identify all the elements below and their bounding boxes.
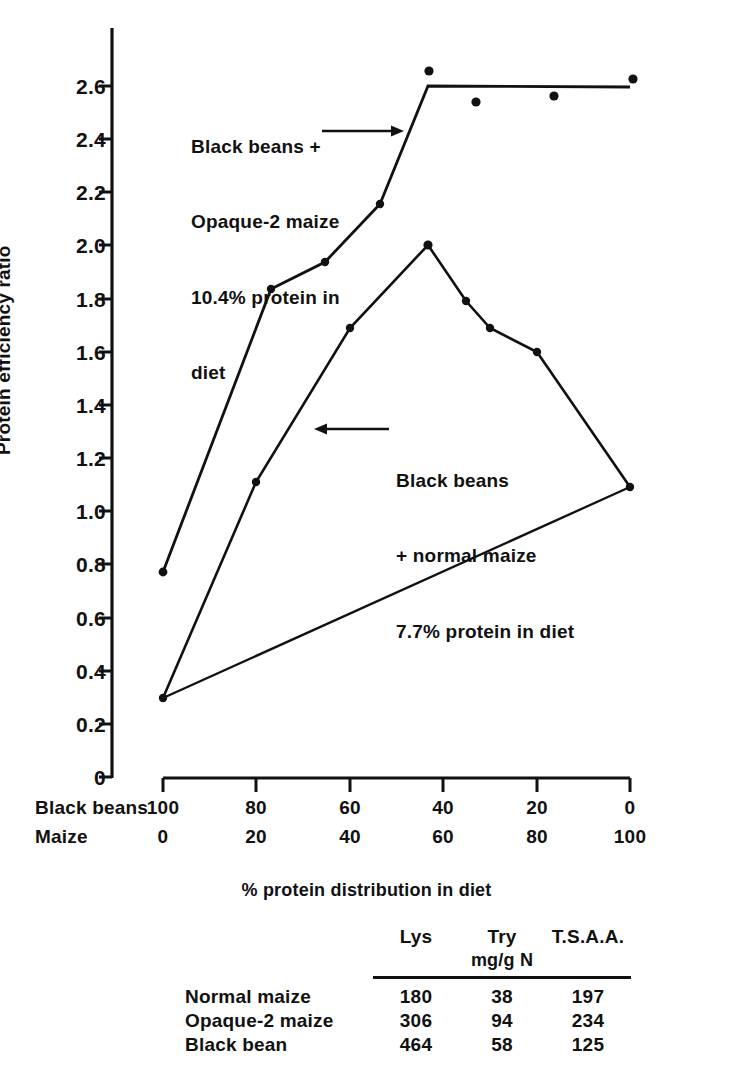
x-tick-label-black-beans: 0: [600, 797, 660, 819]
x-tick-label-black-beans: 80: [226, 797, 286, 819]
y-tick-label: 0: [94, 767, 106, 788]
x-tick-label-black-beans: 40: [413, 797, 473, 819]
x-axis-row-label-black-beans: Black beans: [35, 797, 148, 819]
y-tick-label: 2.4: [76, 129, 106, 150]
annotation-normal-line-2: + normal maize: [396, 543, 574, 568]
table-units-label: mg/g N: [459, 949, 545, 972]
table-rule-cell: [373, 972, 631, 985]
x-axis-ticks: [163, 778, 630, 792]
annotation-opaque2-text: Black beans + Opaque-2 maize 10.4% prote…: [191, 84, 340, 435]
y-axis-title: Protein efficiency ratio: [0, 215, 15, 455]
annotation-normal-line-1: Black beans: [396, 468, 574, 493]
y-tick-label: 2.2: [76, 182, 106, 203]
x-axis-row-maize: Maize 0 20 40 60 80 100: [0, 826, 733, 852]
x-tick-label-maize: 60: [413, 826, 473, 848]
table-cell-tsaa: 234: [545, 1009, 631, 1033]
amino-acid-table: Lys Try T.S.A.A. mg/g N Normal maize: [185, 925, 631, 1057]
table-header-lys: Lys: [373, 925, 459, 949]
table-row: Black bean 464 58 125: [185, 1033, 631, 1057]
annotation-opaque2-line-4: diet: [191, 360, 340, 385]
x-tick-label-maize: 100: [600, 826, 660, 848]
y-tick-label: 0.4: [76, 661, 106, 682]
x-tick-label-black-beans: 100: [133, 797, 193, 819]
table-cell-lys: 180: [373, 985, 459, 1009]
x-axis-title: % protein distribution in diet: [0, 880, 733, 901]
x-tick-label-black-beans: 20: [507, 797, 567, 819]
table-rule-row: [185, 972, 631, 985]
x-tick-label-maize: 0: [133, 826, 193, 848]
x-tick-label-black-beans: 60: [320, 797, 380, 819]
figure-protein-efficiency-ratio: 2.6 2.4 2.2 2.0 1.8 1.6 1.4 1.2 1.0 0.8 …: [0, 0, 733, 1075]
x-tick-label-maize: 20: [226, 826, 286, 848]
table-rule-blank: [185, 972, 373, 985]
y-tick-label: 1.4: [76, 395, 106, 416]
table-header-row: Lys Try T.S.A.A.: [185, 925, 631, 949]
y-tick-label: 1.0: [76, 501, 106, 522]
chart-plot-area: [0, 0, 733, 810]
table-row: Normal maize 180 38 197: [185, 985, 631, 1009]
table-units-blank-tsaa: [545, 949, 631, 972]
table-cell-try: 58: [459, 1033, 545, 1057]
y-tick-label: 2.0: [76, 235, 106, 256]
annotation-opaque2-line-3: 10.4% protein in: [191, 285, 340, 310]
table-cell-try: 38: [459, 985, 545, 1009]
y-tick-label: 0.2: [76, 714, 106, 735]
table-units-row: mg/g N: [185, 949, 631, 972]
table-header-blank: [185, 925, 373, 949]
x-tick-label-maize: 80: [507, 826, 567, 848]
table-row-name: Normal maize: [185, 985, 373, 1009]
amino-acid-table-wrapper: Lys Try T.S.A.A. mg/g N Normal maize: [0, 925, 733, 1075]
x-axis-row-black-beans: Black beans 100 80 60 40 20 0: [0, 797, 733, 823]
table-row-name: Black bean: [185, 1033, 373, 1057]
x-axis-row-label-maize: Maize: [35, 826, 88, 848]
y-tick-label: 1.8: [76, 289, 106, 310]
y-tick-label: 0.8: [76, 554, 106, 575]
x-tick-label-maize: 40: [320, 826, 380, 848]
table-cell-try: 94: [459, 1009, 545, 1033]
annotation-opaque2-line-2: Opaque-2 maize: [191, 209, 340, 234]
annotation-normal-text: Black beans + normal maize 7.7% protein …: [396, 418, 574, 694]
table-units-blank-lys: [373, 949, 459, 972]
table-cell-lys: 464: [373, 1033, 459, 1057]
table-row: Opaque-2 maize 306 94 234: [185, 1009, 631, 1033]
table-cell-tsaa: 125: [545, 1033, 631, 1057]
table-cell-lys: 306: [373, 1009, 459, 1033]
y-axis-tick-labels: 2.6 2.4 2.2 2.0 1.8 1.6 1.4 1.2 1.0 0.8 …: [40, 0, 106, 800]
y-tick-label: 0.6: [76, 608, 106, 629]
annotation-opaque2-line-1: Black beans +: [191, 134, 340, 159]
y-tick-label: 1.2: [76, 448, 106, 469]
table-cell-tsaa: 197: [545, 985, 631, 1009]
table-row-name: Opaque-2 maize: [185, 1009, 373, 1033]
table-header-tsaa: T.S.A.A.: [545, 925, 631, 949]
annotation-normal-line-3: 7.7% protein in diet: [396, 619, 574, 644]
table-header-try: Try: [459, 925, 545, 949]
y-tick-label: 1.6: [76, 342, 106, 363]
y-tick-label: 2.6: [76, 76, 106, 97]
table-units-blank: [185, 949, 373, 972]
